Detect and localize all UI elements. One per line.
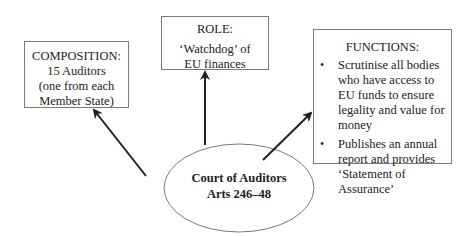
bullet-icon: • (320, 137, 324, 152)
functions-item: • Scrutinise all bodies who have access … (314, 58, 451, 133)
composition-line: 15 Auditors (25, 64, 128, 79)
role-box: ROLE: ‘Watchdog’ of EU finances (161, 16, 269, 70)
functions-box: FUNCTIONS: • Scrutinise all bodies who h… (313, 29, 452, 164)
functions-item-text: Publishes an annual report and provides … (338, 137, 437, 196)
role-title: ROLE: (162, 22, 268, 37)
center-title: Court of Auditors (164, 170, 314, 186)
composition-box: COMPOSITION: 15 Auditors (one from each … (24, 41, 129, 108)
functions-list: • Scrutinise all bodies who have access … (314, 58, 451, 197)
functions-item-text: Scrutinise all bodies who have access to… (338, 58, 445, 132)
bullet-icon: • (320, 58, 324, 73)
functions-item: • Publishes an annual report and provide… (314, 137, 451, 197)
functions-title: FUNCTIONS: (314, 40, 451, 55)
role-line: EU finances (162, 57, 268, 72)
composition-title: COMPOSITION: (25, 49, 128, 64)
composition-line: Member State) (25, 94, 128, 109)
arrow-to-composition (94, 110, 146, 176)
center-subtitle: Arts 246–48 (164, 186, 314, 202)
role-line: ‘Watchdog’ of (162, 42, 268, 57)
arrow-to-functions (263, 113, 311, 160)
composition-line: (one from each (25, 79, 128, 94)
center-label: Court of Auditors Arts 246–48 (164, 170, 314, 202)
